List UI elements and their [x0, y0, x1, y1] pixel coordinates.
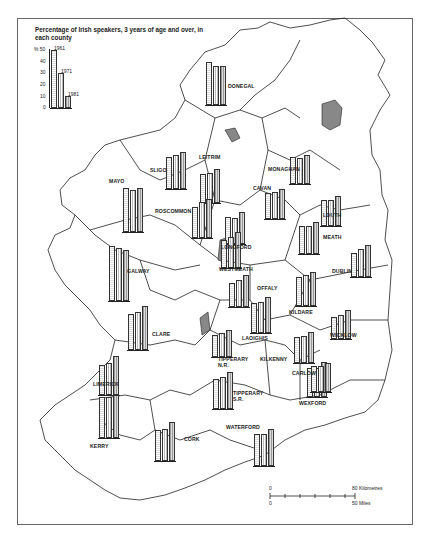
county-chart-westmeath — [220, 232, 242, 269]
lough-neagh — [322, 100, 342, 130]
bar-1981 — [365, 245, 371, 277]
bar-1981 — [335, 196, 341, 226]
label-cavan: CAVAN — [253, 185, 271, 191]
label-laoighis: LAOIGHIS — [242, 335, 268, 341]
bar-1981 — [180, 152, 186, 189]
bar-1971 — [258, 302, 264, 333]
county-chart-kildare — [295, 272, 317, 307]
bar-1971 — [306, 226, 312, 254]
county-chart-mayo — [122, 188, 144, 233]
bar-1981 — [220, 66, 226, 105]
bar-1961 — [128, 314, 134, 350]
label-donegal: DONEGAL — [228, 83, 255, 89]
county-chart-dublin — [350, 245, 372, 278]
bar-1981 — [325, 363, 331, 392]
county-chart-limerick — [98, 356, 120, 396]
bar-1961 — [212, 335, 218, 357]
bar-1961 — [99, 397, 105, 438]
bar-1971 — [106, 397, 112, 438]
county-chart-wexford — [310, 363, 332, 393]
map-title: Percentage of Irish speakers, 3 years of… — [35, 26, 205, 42]
bar-1961 — [294, 337, 300, 363]
label-sligo: SLIGO — [150, 167, 167, 173]
county-chart-waterford — [253, 429, 275, 467]
legend-tick-30: 30 — [40, 69, 46, 75]
legend-bar-1981 — [65, 96, 71, 108]
bar-1971 — [301, 336, 307, 363]
label-cork: CORK — [184, 436, 200, 442]
bar-1981 — [123, 250, 129, 301]
bar-1971 — [219, 333, 225, 357]
legend-tick-50: % 50 — [34, 46, 45, 52]
bar-1981 — [113, 395, 119, 438]
label-longford: LONGFORD — [221, 244, 251, 250]
county-chart-meath — [298, 222, 320, 255]
bar-1961 — [166, 157, 172, 189]
label-tipperary-nr: TIPPERARY N.R. — [218, 356, 248, 368]
bar-1981 — [206, 199, 212, 238]
bar-1971 — [303, 275, 309, 306]
label-mayo: MAYO — [109, 178, 125, 184]
label-leitrim: LEITRIM — [199, 154, 220, 160]
bar-1971 — [261, 434, 267, 466]
bar-1971 — [318, 366, 324, 392]
bar-1981 — [243, 275, 249, 307]
bar-1981 — [313, 222, 319, 254]
county-chart-tipperary-n-r — [211, 330, 233, 358]
scale-km-end: 80 Kilometres — [352, 485, 383, 491]
bar-1981 — [268, 429, 274, 466]
legend-year-1971: 1971 — [61, 68, 72, 74]
legend-bar-1961 — [51, 50, 57, 108]
bar-1981 — [214, 169, 220, 203]
bar-1981 — [308, 332, 314, 363]
label-offaly: OFFALY — [257, 285, 278, 291]
county-chart-roscommon — [191, 199, 213, 239]
bar-1971 — [272, 192, 278, 219]
county-chart-sligo — [165, 152, 187, 190]
bar-1971 — [116, 248, 122, 301]
label-wicklow: WICKLOW — [330, 332, 357, 338]
bar-1981 — [113, 356, 119, 395]
label-limerick: LIMERICK — [93, 381, 119, 387]
label-meath: MEATH — [323, 234, 342, 240]
bar-1961 — [299, 226, 305, 254]
bar-1971 — [162, 429, 168, 461]
bar-1971 — [358, 249, 364, 277]
bar-1961 — [254, 434, 260, 466]
scale-bar — [270, 493, 355, 499]
legend-year-1981: 1981 — [68, 91, 79, 97]
label-carlow: CARLOW — [292, 370, 316, 376]
bar-1971 — [199, 202, 205, 238]
bar-1981 — [310, 272, 316, 306]
county-chart-clare — [127, 306, 149, 351]
bar-1981 — [265, 297, 271, 333]
bar-1971 — [130, 190, 136, 232]
label-kilkenny: KILKENNY — [260, 356, 287, 362]
county-chart-carlow — [293, 332, 315, 364]
bar-1971 — [236, 280, 242, 307]
bar-1981 — [304, 155, 310, 184]
lough-erne — [225, 128, 240, 142]
label-galway: GALWAY — [127, 268, 150, 274]
county-chart-donegal — [205, 62, 227, 106]
scale-km-start: 0 — [269, 485, 272, 491]
legend-tick-20: 20 — [40, 81, 46, 87]
label-dublin: DUBLIN — [332, 268, 352, 274]
bar-1981 — [169, 422, 175, 461]
bar-1961 — [155, 430, 161, 461]
bar-1981 — [142, 306, 148, 350]
bar-1961 — [192, 207, 198, 238]
label-louth: LOUTH — [323, 212, 341, 218]
bar-1981 — [279, 189, 285, 219]
legend-chart — [50, 49, 72, 109]
legend-tick-10: 10 — [40, 93, 46, 99]
label-kildare: KILDARE — [289, 309, 313, 315]
label-tipperary-sr: TIPPERARY S.R. — [233, 390, 263, 402]
bar-1961 — [251, 303, 257, 333]
label-westmeath: WESTMEATH — [219, 266, 253, 272]
county-chart-tipperary-s-r — [212, 372, 234, 410]
bar-1961 — [99, 365, 105, 395]
bar-1971 — [213, 66, 219, 105]
bar-1981 — [235, 232, 241, 268]
label-kerry: KERRY — [90, 443, 108, 449]
